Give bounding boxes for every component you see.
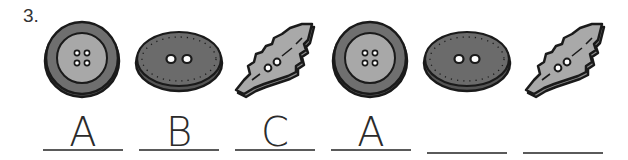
answer-line [523,152,603,154]
leaf-button-image [516,18,612,100]
answer-slot-6[interactable] [523,112,603,156]
answer-line [43,149,123,151]
answer-letter: B [139,112,219,152]
answer-slot-4: A [331,112,411,156]
answer-line [235,149,315,151]
answer-line [139,149,219,151]
leaf-button-image [226,18,322,100]
answer-line [331,149,411,151]
answer-line [427,152,507,154]
answer-letter: A [43,112,123,152]
answer-letter: C [235,112,315,152]
answer-slot-1: A [43,112,123,156]
answer-slot-2: B [139,112,219,156]
oval-button-image [131,18,227,100]
round-button-image [322,18,418,100]
answer-letter: A [331,112,411,152]
round-button-image [34,18,130,100]
answer-slot-3: C [235,112,315,156]
oval-button-image [419,18,515,100]
answer-slot-5[interactable] [427,112,507,156]
